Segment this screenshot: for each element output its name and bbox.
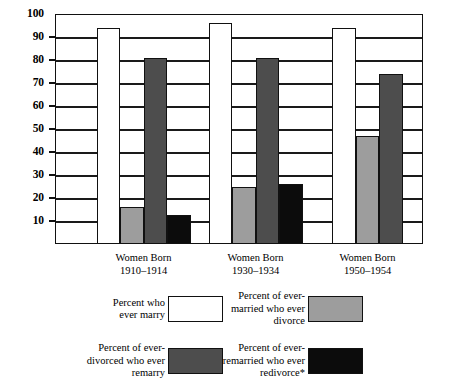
chart-legend: Percent who ever marryPercent of ever- m… (0, 290, 453, 385)
x-group-label-line2: 1930–1934 (196, 265, 316, 278)
bar-g3-s1 (332, 28, 356, 244)
y-tick-label-80: 80 (4, 54, 44, 66)
x-group-label-1: Women Born1910–1914 (84, 252, 204, 277)
legend-label: Percent who ever marry (75, 297, 168, 322)
legend-swatch-black (308, 348, 363, 374)
plot-wrapper: 102030405060708090100 Women Born1910–191… (0, 0, 453, 288)
bar-g1-s4 (167, 215, 191, 244)
x-group-label-line1: Women Born (196, 252, 316, 265)
legend-label: Percent of ever- remarried who ever redi… (192, 342, 308, 380)
bar-g2-s1 (209, 23, 233, 244)
bar-g1-s3 (144, 58, 168, 244)
y-tick-label-10: 10 (4, 215, 44, 227)
y-tick-label-50: 50 (4, 123, 44, 135)
x-group-label-3: Women Born1950–1954 (308, 252, 428, 277)
bar-g1-s2 (120, 207, 144, 244)
legend-label: Percent of ever- married who ever divorc… (205, 290, 308, 328)
y-tick-label-20: 20 (4, 192, 44, 204)
bar-g3-s2 (356, 136, 380, 244)
legend-item-1[interactable]: Percent who ever marry (75, 296, 223, 322)
legend-swatch-lgray (308, 296, 363, 322)
legend-label: Percent of ever- divorced who ever remar… (60, 342, 168, 380)
x-group-label-2: Women Born1930–1934 (196, 252, 316, 277)
bar-g2-s2 (232, 187, 256, 245)
x-group-label-line2: 1910–1914 (84, 265, 204, 278)
bar-g2-s3 (256, 58, 280, 244)
y-tick-label-40: 40 (4, 146, 44, 158)
y-tick-label-100: 100 (4, 8, 44, 20)
y-tick-label-70: 70 (4, 77, 44, 89)
bar-g3-s3 (379, 74, 403, 244)
bars-layer (55, 14, 423, 244)
y-tick-label-30: 30 (4, 169, 44, 181)
legend-item-2[interactable]: Percent of ever- married who ever divorc… (205, 290, 363, 328)
bar-g2-s4 (279, 184, 303, 244)
bar-g1-s1 (97, 28, 121, 244)
bar-chart: 102030405060708090100 Women Born1910–191… (0, 0, 453, 385)
y-tick-label-90: 90 (4, 31, 44, 43)
x-group-label-line2: 1950–1954 (308, 265, 428, 278)
legend-item-4[interactable]: Percent of ever- remarried who ever redi… (192, 342, 363, 380)
x-group-label-line1: Women Born (84, 252, 204, 265)
y-tick-label-60: 60 (4, 100, 44, 112)
x-group-label-line1: Women Born (308, 252, 428, 265)
